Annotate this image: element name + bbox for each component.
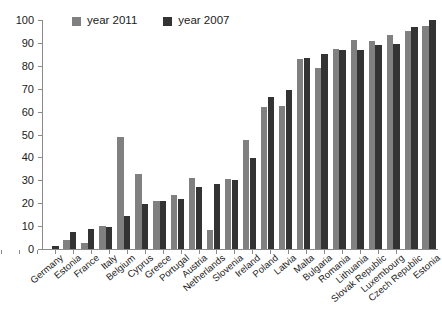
x-axis-tick [1, 250, 2, 254]
bar-group [351, 20, 364, 249]
bar-group [387, 20, 400, 249]
bar-year-2007 [250, 158, 256, 249]
bar-year-2011 [225, 179, 231, 249]
bar-group [153, 20, 166, 249]
bar-group [207, 20, 220, 249]
bar-group [45, 20, 58, 249]
bar-group [243, 20, 256, 249]
bar-year-2011 [63, 240, 69, 249]
bar-year-2011 [207, 230, 213, 249]
bar-year-2011 [333, 49, 339, 249]
bar-year-2007 [375, 45, 381, 249]
bar-year-2007 [214, 184, 220, 249]
bar-group [261, 20, 274, 249]
bar-year-2007 [88, 229, 94, 249]
bar-year-2011 [351, 40, 357, 249]
bar-year-2007 [411, 27, 417, 249]
bar-year-2007 [357, 50, 363, 249]
bar-year-2011 [189, 178, 195, 249]
bar-year-2011 [405, 31, 411, 249]
bar-year-2007 [321, 54, 327, 249]
y-axis-tick-label: 90 [22, 37, 34, 49]
x-axis-labels: GermanyEstoniaFranceItalyBelgiumCyprusGr… [42, 252, 442, 324]
bar-year-2007 [160, 201, 166, 249]
bar-year-2011 [297, 59, 303, 249]
bar-year-2007 [70, 232, 76, 249]
bar-year-2011 [99, 226, 105, 249]
bar-year-2007 [178, 199, 184, 249]
bar-group [81, 20, 94, 249]
bar-year-2011 [135, 174, 141, 249]
y-axis-tick-label: 70 [22, 83, 34, 95]
y-axis-tick-label: 100 [16, 14, 34, 26]
bar-year-2011 [81, 243, 87, 249]
bar-year-2007 [304, 58, 310, 249]
bar-year-2011 [261, 107, 267, 249]
bar-group [117, 20, 130, 249]
bar-group [333, 20, 346, 249]
bar-year-2011 [243, 140, 249, 249]
y-axis-tick-label: 40 [22, 151, 34, 163]
y-axis-tick-label: 10 [22, 220, 34, 232]
bar-year-2007 [124, 216, 130, 249]
bar-year-2011 [315, 68, 321, 249]
bar-year-2007 [196, 187, 202, 249]
bar-year-2007 [339, 50, 345, 249]
bar-year-2007 [286, 90, 292, 249]
bar-group [405, 20, 418, 249]
bar-year-2007 [393, 44, 399, 249]
y-axis-tick-label: 60 [22, 106, 34, 118]
bars-layer [43, 20, 438, 249]
bar-group [171, 20, 184, 249]
bar-group [99, 20, 112, 249]
x-axis-tick [19, 250, 20, 254]
bar-year-2007 [106, 227, 112, 249]
y-axis-tick-label: 50 [22, 129, 34, 141]
bar-group [369, 20, 382, 249]
bar-group [422, 20, 435, 249]
bar-group [63, 20, 76, 249]
bar-year-2011 [117, 137, 123, 249]
bar-group [315, 20, 328, 249]
y-axis-tick-label: 80 [22, 60, 34, 72]
bar-year-2007 [52, 246, 58, 249]
bar-year-2011 [153, 201, 159, 249]
bar-year-2011 [387, 35, 393, 249]
bar-year-2007 [268, 97, 274, 249]
bar-group [297, 20, 310, 249]
plot-area: 0102030405060708090100 [42, 20, 438, 250]
bar-year-2011 [369, 41, 375, 249]
bar-year-2011 [422, 26, 428, 249]
bar-year-2007 [429, 20, 435, 249]
bar-group [225, 20, 238, 249]
bar-year-2007 [232, 180, 238, 249]
x-axis-tick [37, 250, 38, 254]
bar-year-2011 [279, 106, 285, 249]
y-axis-tick-label: 20 [22, 197, 34, 209]
bar-year-2007 [142, 204, 148, 249]
y-axis-tick-label: 30 [22, 174, 34, 186]
bar-group [279, 20, 292, 249]
bar-group [189, 20, 202, 249]
bar-group [135, 20, 148, 249]
bar-year-2011 [171, 195, 177, 250]
